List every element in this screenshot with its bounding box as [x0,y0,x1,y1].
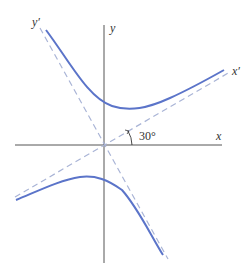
angle-label: 30° [139,129,156,143]
x-prime-axis [15,72,230,197]
y-label: y [109,21,116,35]
x-prime-label: x′ [231,64,240,78]
hyperbola-lower-branch [16,177,163,255]
x-label: x [215,129,222,143]
hyperbola-upper-branch [46,30,224,109]
angle-arrow-icon [125,130,129,134]
y-prime-label: y′ [31,15,40,29]
hyperbola-diagram: y′ y x′ x 30° [0,0,247,274]
angle-arc [128,131,132,145]
